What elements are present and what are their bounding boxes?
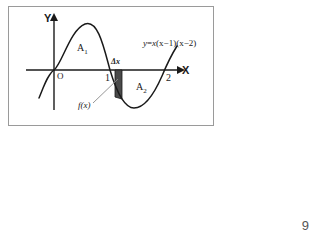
x-tick-label-2: 2 xyxy=(166,72,171,83)
area-label-a1: A1 xyxy=(77,42,88,56)
x-axis-label: X xyxy=(182,64,190,76)
area-labels-group: A1 A2 xyxy=(77,42,147,95)
eq-factor-2: (x−2) xyxy=(176,38,196,48)
x-tick-label-1: 1 xyxy=(105,72,110,83)
area-label-a1-sub: 1 xyxy=(84,48,88,56)
function-graph-figure: Y X O 1 2 A1 A2 Δx f(x) y=x(x−1)(x−2) xyxy=(0,0,224,135)
riemann-strip xyxy=(115,70,122,99)
fx-label: f(x) xyxy=(78,100,91,110)
eq-factor-1: (x−1) xyxy=(156,38,176,48)
fx-callout: f(x) xyxy=(78,79,118,110)
area-label-a2: A2 xyxy=(136,81,147,95)
curve-equation-label: y=x(x−1)(x−2) xyxy=(142,38,196,48)
cubic-curve xyxy=(39,23,177,108)
origin-label: O xyxy=(57,71,64,81)
delta-x-label: Δx xyxy=(110,57,120,66)
axes-group xyxy=(26,20,178,110)
area-label-a2-sub: 2 xyxy=(143,87,147,95)
y-axis-label: Y xyxy=(44,12,52,24)
delta-x-strip-rect xyxy=(115,70,122,99)
